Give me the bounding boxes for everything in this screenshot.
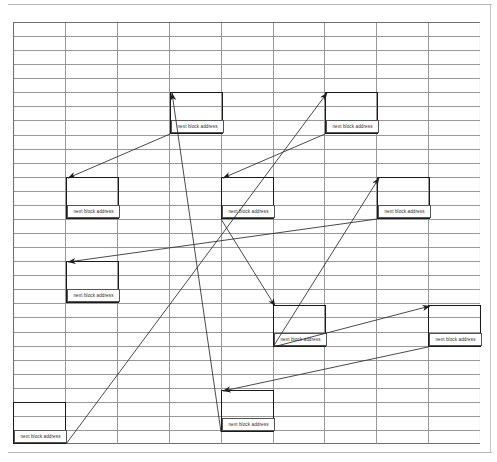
page-frame-top-line bbox=[8, 4, 492, 5]
next-block-address-label: next block address bbox=[429, 333, 482, 346]
memory-block: next block address bbox=[428, 305, 481, 347]
memory-block: next block address bbox=[325, 92, 378, 134]
next-block-address-label: next block address bbox=[14, 430, 67, 443]
next-block-address-label: next block address bbox=[67, 289, 120, 302]
next-block-address-label: next block address bbox=[67, 205, 120, 218]
memory-block: next block address bbox=[273, 305, 326, 347]
diagram-page: next block addressnext block addressnext… bbox=[0, 0, 497, 462]
memory-block: next block address bbox=[13, 402, 66, 444]
memory-block: next block address bbox=[221, 390, 274, 432]
memory-block: next block address bbox=[377, 177, 430, 219]
memory-block: next block address bbox=[66, 177, 119, 219]
memory-block: next block address bbox=[170, 92, 223, 134]
next-block-address-label: next block address bbox=[222, 205, 275, 218]
memory-block: next block address bbox=[66, 261, 119, 303]
page-frame-right-line bbox=[490, 4, 491, 453]
ruled-grid bbox=[13, 22, 480, 444]
grid-lines bbox=[13, 22, 480, 444]
next-block-address-label: next block address bbox=[378, 205, 431, 218]
page-frame-bottom-line bbox=[8, 452, 492, 453]
next-block-address-label: next block address bbox=[222, 418, 275, 431]
memory-block: next block address bbox=[221, 177, 274, 219]
next-block-address-label: next block address bbox=[326, 120, 379, 133]
next-block-address-label: next block address bbox=[274, 333, 327, 346]
next-block-address-label: next block address bbox=[171, 120, 224, 133]
